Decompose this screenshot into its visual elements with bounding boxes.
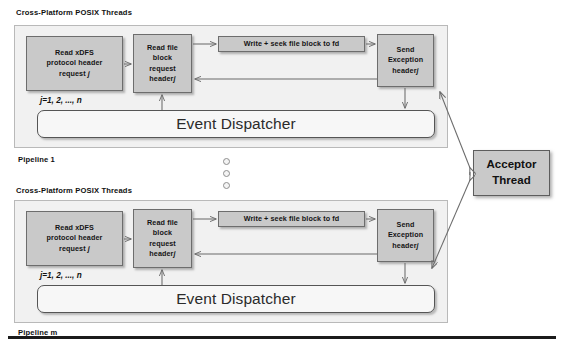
send-exception-index: j — [417, 241, 419, 250]
send-exception-index: j — [417, 66, 419, 75]
pipeline-bottom-send-exception-box[interactable]: Send Exception headerj — [377, 209, 434, 262]
send-exception-line3: header — [392, 66, 416, 75]
pipeline-bottom-read-xdfs-box[interactable]: Read xDFS protocol header request j — [26, 211, 123, 266]
send-exception-line2: Exception — [388, 230, 423, 239]
read-xdfs-line1: Read xDFS — [55, 48, 94, 57]
acceptor-line2: Thread — [492, 174, 530, 186]
read-file-block-line3: request — [149, 64, 176, 73]
pipeline-bottom-index-note: j=1, 2, ..., n — [40, 271, 82, 280]
read-xdfs-line3: request — [59, 244, 86, 253]
write-seek-label: Write + seek file block to fd — [244, 214, 340, 223]
pipeline-ellipsis-dots — [223, 158, 230, 194]
ellipsis-dot-2 — [223, 170, 230, 177]
diagram-canvas: Cross-Platform POSIX Threads Read xDFS p… — [0, 0, 561, 344]
write-seek-label: Write + seek file block to fd — [244, 39, 340, 48]
pipeline-top-send-exception-box[interactable]: Send Exception headerj — [377, 34, 434, 87]
read-file-block-line2: block — [153, 53, 172, 62]
read-xdfs-line2: protocol header — [47, 233, 103, 242]
pipeline-bottom-write-seek-box[interactable]: Write + seek file block to fd — [218, 211, 365, 227]
send-exception-line1: Send — [397, 220, 415, 229]
pipeline-bottom-read-file-block-box[interactable]: Read file block request headerj — [133, 209, 192, 268]
pipeline-top-read-file-block-box[interactable]: Read file block request headerj — [133, 34, 192, 93]
pipeline-top-label: Pipeline 1 — [18, 155, 55, 164]
read-xdfs-index: j — [88, 244, 90, 253]
read-xdfs-line1: Read xDFS — [55, 223, 94, 232]
read-xdfs-line3: request — [59, 69, 86, 78]
read-file-block-index: j — [174, 249, 176, 258]
send-exception-line1: Send — [397, 45, 415, 54]
pipeline-top-read-xdfs-box[interactable]: Read xDFS protocol header request j — [26, 36, 123, 91]
read-xdfs-index: j — [88, 69, 90, 78]
pipeline-bottom-posix-threads-title: Cross-Platform POSIX Threads — [16, 186, 132, 195]
read-file-block-line4: header — [149, 249, 173, 258]
send-exception-line2: Exception — [388, 55, 423, 64]
event-dispatcher-bottom-label: Event Dispatcher — [176, 290, 296, 308]
pipeline-top-write-seek-box[interactable]: Write + seek file block to fd — [218, 36, 365, 52]
read-file-block-line1: Read file — [147, 43, 178, 52]
acceptor-thread-box[interactable]: Acceptor Thread — [473, 150, 550, 196]
pipeline-top-index-note: j=1, 2, ..., n — [40, 96, 82, 105]
send-exception-line3: header — [392, 241, 416, 250]
bottom-divider-rule — [8, 336, 556, 339]
ellipsis-dot-1 — [223, 158, 230, 165]
acceptor-line1: Acceptor — [487, 158, 537, 170]
read-file-block-line1: Read file — [147, 218, 178, 227]
ellipsis-dot-3 — [223, 182, 230, 189]
read-file-block-index: j — [174, 74, 176, 83]
read-file-block-line2: block — [153, 228, 172, 237]
pipeline-bottom-event-dispatcher[interactable]: Event Dispatcher — [37, 285, 435, 313]
read-file-block-line3: request — [149, 239, 176, 248]
read-file-block-line4: header — [149, 74, 173, 83]
pipeline-top-event-dispatcher[interactable]: Event Dispatcher — [37, 110, 435, 138]
event-dispatcher-top-label: Event Dispatcher — [176, 115, 296, 133]
read-xdfs-line2: protocol header — [47, 58, 103, 67]
pipeline-top-posix-threads-title: Cross-Platform POSIX Threads — [16, 8, 132, 17]
